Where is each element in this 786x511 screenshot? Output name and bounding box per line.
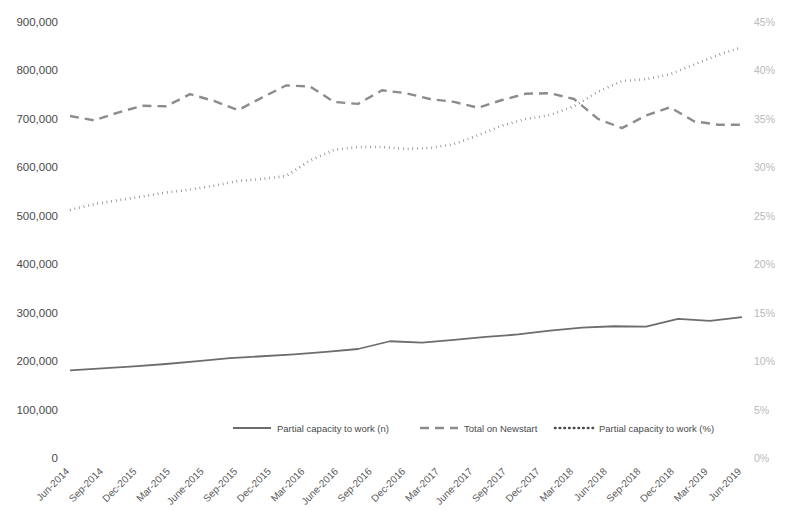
y-axis-tick-label: 600,000 (16, 161, 58, 173)
y2-axis-tick-label: 10% (754, 355, 775, 367)
y2-axis-tick-label: 30% (754, 161, 775, 173)
y2-axis-tick-label: 35% (754, 113, 775, 125)
y-axis-tick-label: 700,000 (16, 113, 58, 125)
legend-label-1: Partial capacity to work (n) (277, 423, 389, 434)
y-axis-tick-label: 100,000 (16, 404, 58, 416)
legend-label-2: Total on Newstart (464, 423, 538, 434)
y2-axis-tick-label: 40% (754, 64, 775, 76)
y2-axis-tick-label: 20% (754, 258, 775, 270)
y-axis-tick-label: 400,000 (16, 258, 58, 270)
chart-background (0, 0, 786, 511)
y-axis-tick-label: 0 (52, 452, 58, 464)
legend-label-3: Partial capacity to work (%) (599, 423, 714, 434)
chart-canvas: 0100,000200,000300,000400,000500,000600,… (0, 0, 786, 511)
y2-axis-tick-label: 0% (754, 452, 769, 464)
y2-axis-tick-label: 15% (754, 307, 775, 319)
y2-axis-tick-label: 25% (754, 210, 775, 222)
y2-axis-tick-label: 5% (754, 404, 769, 416)
y2-axis-tick-label: 45% (754, 16, 775, 28)
y-axis-tick-label: 900,000 (16, 16, 58, 28)
y-axis-tick-label: 500,000 (16, 210, 58, 222)
y-axis-tick-label: 200,000 (16, 355, 58, 367)
y-axis-tick-label: 800,000 (16, 64, 58, 76)
y-axis-tick-label: 300,000 (16, 307, 58, 319)
chart-legend: Partial capacity to work (n)Total on New… (233, 423, 714, 434)
